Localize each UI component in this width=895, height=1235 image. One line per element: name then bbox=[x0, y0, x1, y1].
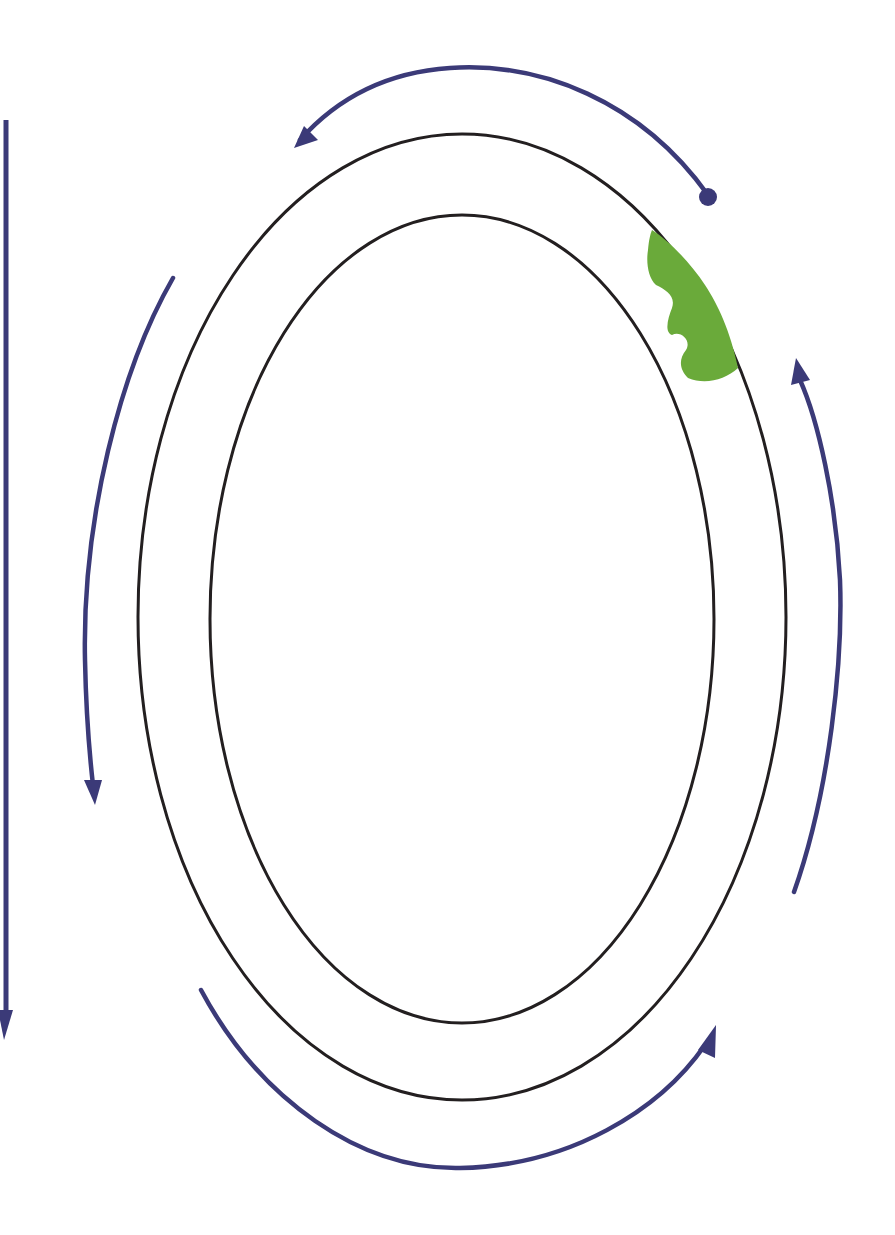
top-arrow bbox=[294, 67, 717, 206]
right-arrow bbox=[791, 358, 840, 892]
left-edge-arrow bbox=[0, 120, 13, 1040]
left-arrow bbox=[84, 278, 173, 805]
circulation-diagram bbox=[0, 0, 895, 1235]
start-dot-icon bbox=[699, 188, 717, 206]
inner-ellipse bbox=[210, 215, 714, 1023]
green-region bbox=[647, 230, 738, 381]
